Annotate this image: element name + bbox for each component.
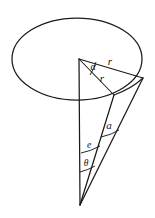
cone-geometry-figure: r r α a e θ <box>0 0 155 218</box>
angle-middle-label: e <box>87 140 91 150</box>
radius-lower-label: r <box>100 72 105 84</box>
slant-label: a <box>106 119 112 131</box>
cone-axis-line <box>79 59 80 205</box>
angle-lower-label: θ <box>84 158 89 168</box>
cone-diagram-canvas: r r α a e θ <box>0 0 155 218</box>
apex-angle-label: α <box>90 61 96 72</box>
cone-base-ellipse <box>12 18 142 100</box>
slant-angle-arc <box>101 130 119 137</box>
slant-front-line <box>80 95 114 205</box>
radius-upper-label: r <box>108 55 113 67</box>
